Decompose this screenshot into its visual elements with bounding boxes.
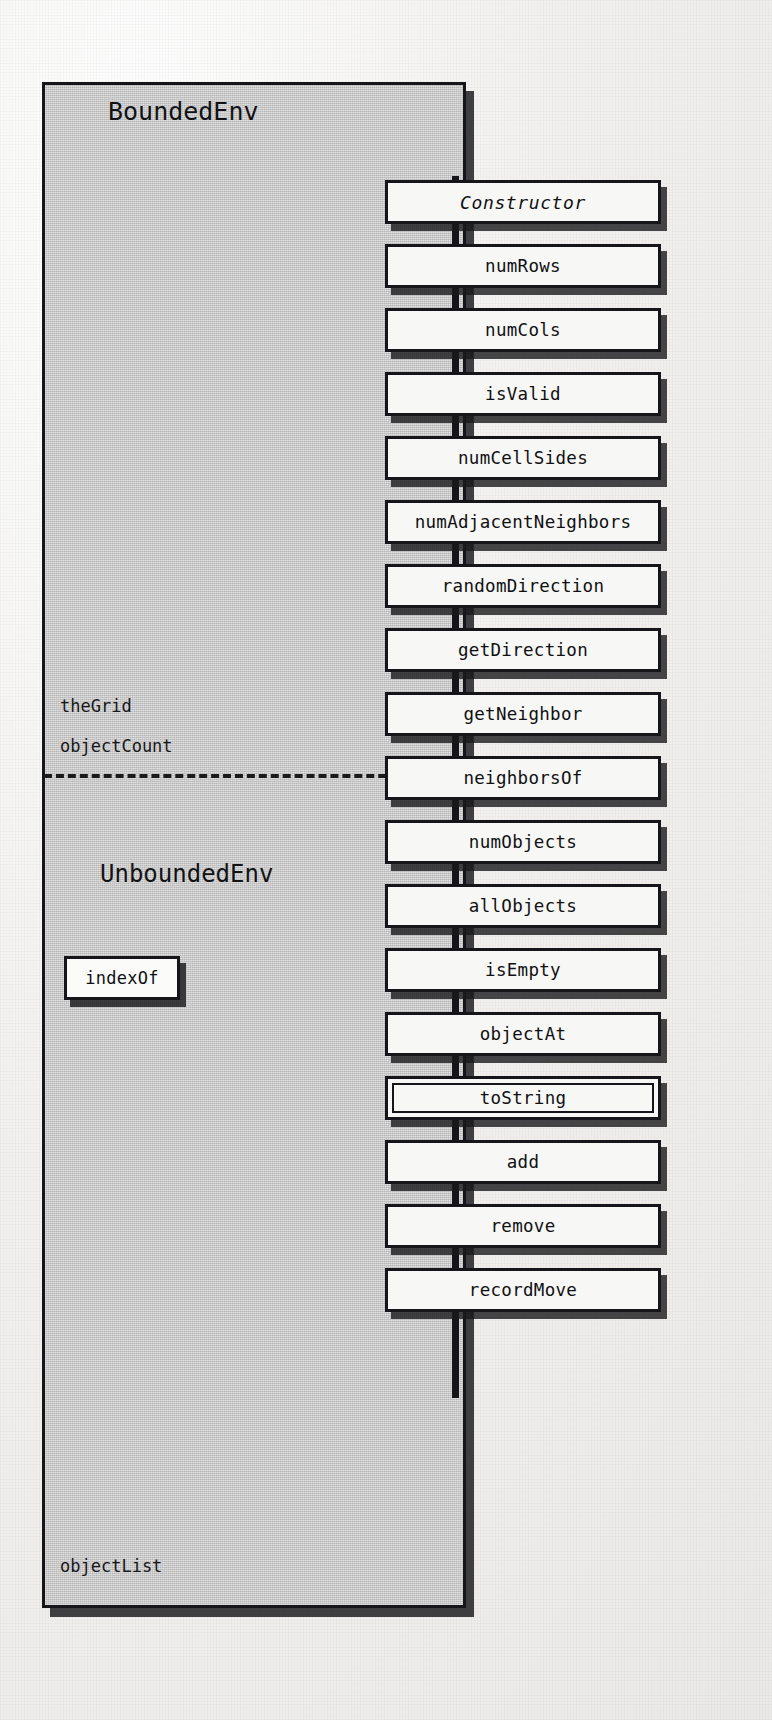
method-box-constructor: Constructor	[385, 180, 661, 224]
method-box-neighborsof: neighborsOf	[385, 756, 661, 800]
method-label: isEmpty	[485, 960, 561, 980]
class-name-unboundedenv: UnboundedEnv	[100, 860, 273, 888]
method-box-getneighbor: getNeighbor	[385, 692, 661, 736]
method-label: recordMove	[469, 1280, 577, 1300]
method-label-indexof: indexOf	[85, 968, 159, 988]
method-label: numCellSides	[458, 448, 588, 468]
method-box-numcols: numCols	[385, 308, 661, 352]
field-objectcount: objectCount	[60, 736, 173, 756]
field-objectlist: objectList	[60, 1556, 162, 1576]
method-label: isValid	[485, 384, 561, 404]
method-box-add: add	[385, 1140, 661, 1184]
method-label: getDirection	[458, 640, 588, 660]
method-label: numAdjacentNeighbors	[415, 512, 632, 532]
method-box-getdirection: getDirection	[385, 628, 661, 672]
class-name-boundedenv: BoundedEnv	[108, 97, 259, 126]
method-box-isempty: isEmpty	[385, 948, 661, 992]
method-box-recordmove: recordMove	[385, 1268, 661, 1312]
method-label: add	[507, 1152, 540, 1172]
method-box-numobjects: numObjects	[385, 820, 661, 864]
method-box-remove: remove	[385, 1204, 661, 1248]
method-box-randomdirection: randomDirection	[385, 564, 661, 608]
method-box-isvalid: isValid	[385, 372, 661, 416]
method-box-allobjects: allObjects	[385, 884, 661, 928]
method-box-numrows: numRows	[385, 244, 661, 288]
method-stack: ConstructornumRowsnumColsisValidnumCellS…	[385, 180, 665, 1332]
method-box-objectat: objectAt	[385, 1012, 661, 1056]
method-label: numCols	[485, 320, 561, 340]
method-label: remove	[490, 1216, 555, 1236]
method-label: getNeighbor	[463, 704, 582, 724]
method-label: randomDirection	[442, 576, 605, 596]
method-box-indexof: indexOf	[64, 956, 180, 1000]
method-label: Constructor	[460, 192, 586, 213]
method-label: numObjects	[469, 832, 577, 852]
method-label: objectAt	[480, 1024, 567, 1044]
method-label: allObjects	[469, 896, 577, 916]
method-box-numadjacentneighbors: numAdjacentNeighbors	[385, 500, 661, 544]
method-label: numRows	[485, 256, 561, 276]
field-thegrid: theGrid	[60, 696, 132, 716]
method-box-tostring: toString	[385, 1076, 661, 1120]
method-label: neighborsOf	[463, 768, 582, 788]
method-label: toString	[480, 1088, 567, 1108]
method-box-numcellsides: numCellSides	[385, 436, 661, 480]
class-compartment-divider	[44, 774, 422, 778]
